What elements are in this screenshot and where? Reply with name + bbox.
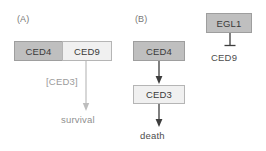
arrow-ced3-to-death [154, 104, 164, 128]
node-ced9-panel-c: CED9 [211, 52, 237, 63]
edge-label-ced3-panel-a: [CED3] [46, 76, 78, 87]
node-ced4-panel-b: CED4 [133, 41, 185, 61]
panel-label-a: (A) [17, 14, 29, 24]
node-ced4-panel-a: CED4 [14, 41, 63, 61]
outcome-survival: survival [61, 114, 95, 125]
arrow-panel-a-to-survival [81, 61, 91, 113]
outcome-death: death [140, 130, 165, 141]
node-ced9-panel-a: CED9 [62, 41, 112, 61]
inhibition-tbar-egl1-ced9 [224, 33, 236, 50]
panel-label-b: (B) [135, 14, 147, 24]
node-ced3-panel-b: CED3 [133, 85, 185, 104]
diagram-canvas: (A) CED4 CED9 [CED3] survival (B) CED4 C… [0, 0, 266, 151]
arrow-ced4-to-ced3 [154, 61, 164, 85]
node-egl1: EGL1 [206, 13, 252, 33]
